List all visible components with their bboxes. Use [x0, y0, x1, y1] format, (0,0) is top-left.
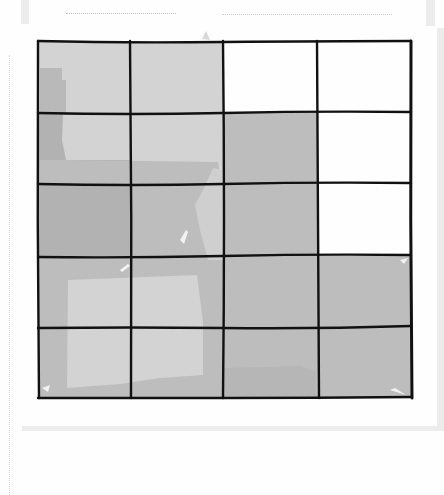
shade-patch [224, 366, 316, 396]
grid-line-v [411, 41, 412, 398]
shade-patch [62, 115, 130, 160]
grid-cell [317, 184, 411, 256]
grid-cell [130, 41, 223, 113]
grid-line-h [38, 397, 411, 398]
grid-cell [223, 184, 317, 256]
grid-cell [38, 184, 130, 256]
grid-cell [317, 113, 411, 184]
grid-cell [317, 256, 411, 327]
shade-patch [67, 275, 203, 388]
grid-line-v [223, 41, 224, 398]
grid-cell [223, 113, 317, 184]
grid-line-v [38, 41, 39, 398]
grid-cell [317, 41, 411, 113]
grid-cell [223, 41, 317, 113]
grid-cell [317, 327, 411, 398]
grid-line-v [130, 41, 131, 398]
grid-line-h [38, 41, 411, 42]
grid-cell [223, 256, 317, 327]
shade-patch [202, 31, 210, 40]
